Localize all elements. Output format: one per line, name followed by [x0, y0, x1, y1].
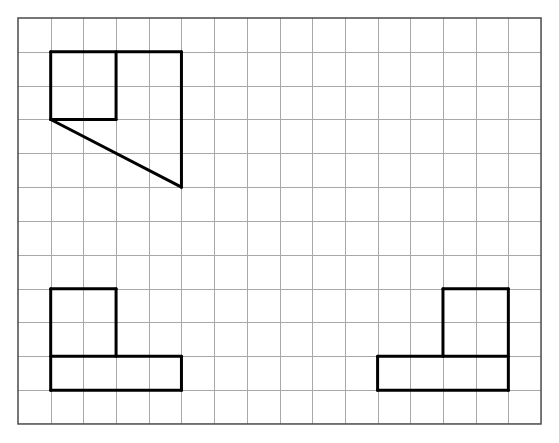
grid-lines: [18, 18, 541, 424]
shapes-layer: [51, 52, 509, 390]
shape-bottom-right-view: [378, 289, 509, 390]
grid-border: [18, 18, 541, 424]
grid-diagram: [0, 0, 559, 443]
